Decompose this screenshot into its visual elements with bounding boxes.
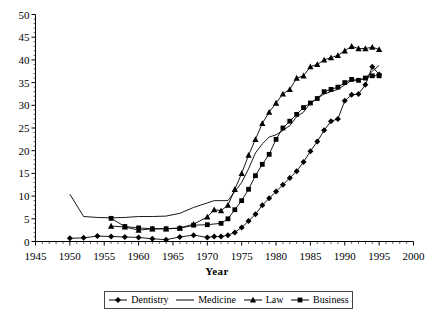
legend-item-business[interactable]: Business bbox=[290, 295, 349, 305]
data-point-square bbox=[281, 126, 286, 131]
x-tick-label: 1960 bbox=[128, 250, 151, 262]
data-point-triangle bbox=[245, 152, 251, 158]
data-point-square bbox=[315, 96, 320, 101]
data-point-triangle bbox=[239, 170, 245, 176]
y-tick-label: 15 bbox=[19, 167, 31, 179]
x-tick-label: 1985 bbox=[299, 250, 322, 262]
data-point-diamond bbox=[314, 139, 320, 145]
y-tick-label: 30 bbox=[19, 99, 31, 111]
series-business bbox=[109, 73, 382, 231]
data-point-square bbox=[232, 207, 237, 212]
y-tick-label: 35 bbox=[19, 77, 31, 89]
data-point-square bbox=[226, 216, 231, 221]
data-point-square bbox=[239, 198, 244, 203]
data-point-triangle bbox=[349, 43, 355, 49]
data-point-square bbox=[191, 223, 196, 228]
data-point-triangle bbox=[287, 86, 293, 92]
data-point-diamond bbox=[108, 234, 114, 240]
data-point-square bbox=[342, 80, 347, 85]
data-point-square bbox=[322, 89, 327, 94]
series-line bbox=[111, 46, 379, 230]
data-point-triangle bbox=[335, 52, 341, 58]
data-point-square bbox=[260, 162, 265, 167]
data-point-square bbox=[336, 85, 341, 90]
legend-label: Law bbox=[266, 295, 284, 305]
data-point-triangle bbox=[314, 61, 320, 67]
data-point-triangle bbox=[225, 202, 231, 208]
x-tick-label: 1995 bbox=[368, 250, 391, 262]
legend-marker-none-icon bbox=[175, 295, 195, 305]
data-point-diamond bbox=[122, 234, 128, 240]
y-tick-label: 0 bbox=[24, 236, 30, 248]
data-point-square bbox=[370, 73, 375, 78]
x-tick-label: 1980 bbox=[265, 250, 288, 262]
x-tick-label: 1970 bbox=[196, 250, 219, 262]
data-point-triangle bbox=[369, 44, 375, 50]
data-point-diamond bbox=[307, 148, 313, 154]
data-point-diamond bbox=[204, 234, 210, 240]
data-point-square bbox=[267, 152, 272, 157]
data-point-square bbox=[287, 119, 292, 124]
legend-marker-square-icon bbox=[290, 295, 310, 305]
data-point-square bbox=[219, 221, 224, 226]
x-tick-label: 1945 bbox=[25, 250, 48, 262]
data-point-diamond bbox=[81, 235, 87, 241]
data-point-diamond bbox=[149, 236, 155, 242]
series-law bbox=[108, 43, 382, 233]
legend-label: Business bbox=[313, 295, 349, 305]
data-point-square bbox=[205, 222, 210, 227]
y-tick-label: 45 bbox=[19, 31, 31, 43]
data-point-diamond bbox=[115, 297, 121, 303]
data-point-square bbox=[349, 77, 354, 82]
data-point-triangle bbox=[211, 207, 217, 213]
data-point-square bbox=[246, 187, 251, 192]
data-point-square bbox=[308, 101, 313, 106]
x-tick-label: 1950 bbox=[59, 250, 82, 262]
legend-label: Medicine bbox=[198, 295, 236, 305]
data-point-square bbox=[136, 225, 141, 230]
data-point-square bbox=[274, 137, 279, 142]
chart-container: 0510152025303540455019451950195519601965… bbox=[0, 0, 434, 322]
data-point-square bbox=[356, 78, 361, 83]
series-line bbox=[111, 76, 379, 229]
legend-item-medicine[interactable]: Medicine bbox=[175, 295, 236, 305]
data-point-square bbox=[150, 226, 155, 231]
data-point-diamond bbox=[211, 234, 217, 240]
x-tick-label: 2000 bbox=[403, 250, 426, 262]
data-point-diamond bbox=[136, 234, 142, 240]
data-point-square bbox=[177, 226, 182, 231]
x-tick-label: 1965 bbox=[162, 250, 185, 262]
data-point-square bbox=[298, 298, 303, 303]
data-point-diamond bbox=[225, 232, 231, 238]
data-point-square bbox=[164, 226, 169, 231]
y-tick-label: 25 bbox=[19, 122, 31, 134]
data-point-square bbox=[377, 73, 382, 78]
data-point-triangle bbox=[280, 91, 286, 97]
data-point-square bbox=[301, 105, 306, 110]
data-point-square bbox=[294, 112, 299, 117]
data-point-diamond bbox=[218, 234, 224, 240]
legend-item-law[interactable]: Law bbox=[243, 295, 284, 305]
data-point-diamond bbox=[94, 233, 100, 239]
legend-marker-diamond-icon bbox=[108, 295, 128, 305]
x-tick-label: 1955 bbox=[93, 250, 116, 262]
x-axis-title: Year bbox=[0, 265, 434, 277]
data-point-square bbox=[109, 216, 114, 221]
y-tick-label: 20 bbox=[19, 145, 31, 157]
data-point-diamond bbox=[191, 232, 197, 238]
data-point-diamond bbox=[177, 234, 183, 240]
y-tick-label: 50 bbox=[19, 9, 31, 21]
chart-legend: DentistryMedicineLawBusiness bbox=[104, 291, 353, 309]
data-point-square bbox=[329, 87, 334, 92]
data-point-diamond bbox=[232, 229, 238, 235]
data-point-triangle bbox=[342, 48, 348, 54]
legend-marker-triangle-icon bbox=[243, 295, 263, 305]
data-point-square bbox=[253, 173, 258, 178]
data-point-square bbox=[122, 224, 127, 229]
data-point-triangle bbox=[252, 136, 258, 142]
y-tick-label: 10 bbox=[19, 190, 31, 202]
y-tick-label: 40 bbox=[19, 54, 31, 66]
x-tick-label: 1975 bbox=[231, 250, 254, 262]
data-point-triangle bbox=[259, 120, 265, 126]
legend-item-dentistry[interactable]: Dentistry bbox=[108, 295, 168, 305]
